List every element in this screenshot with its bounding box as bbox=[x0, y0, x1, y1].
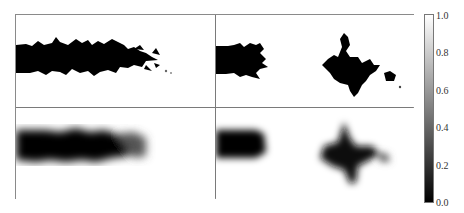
colorbar bbox=[424, 14, 434, 203]
sharp-blob-image bbox=[216, 15, 415, 107]
sharp-plume-image bbox=[16, 15, 215, 107]
smooth-blob-image bbox=[216, 108, 415, 199]
colorbar-tick-6: 0.0 bbox=[436, 198, 449, 208]
panel-top-right bbox=[216, 15, 415, 107]
panel-bottom-right bbox=[216, 108, 415, 199]
panel-grid bbox=[15, 14, 414, 199]
horizontal-divider bbox=[16, 107, 413, 108]
panel-bottom-left bbox=[16, 108, 215, 199]
colorbar-tick-2: 0.8 bbox=[436, 48, 449, 58]
panel-top-left bbox=[16, 15, 215, 107]
smooth-plume-image bbox=[16, 108, 215, 199]
figure: 1.0 0.8 0.6 0.4 0.2 0.0 bbox=[0, 0, 464, 213]
colorbar-tick-5: 0.2 bbox=[436, 161, 449, 171]
colorbar-tick-3: 0.6 bbox=[436, 86, 449, 96]
colorbar-tick-1: 1.0 bbox=[436, 11, 449, 21]
colorbar-tick-4: 0.4 bbox=[436, 123, 449, 133]
